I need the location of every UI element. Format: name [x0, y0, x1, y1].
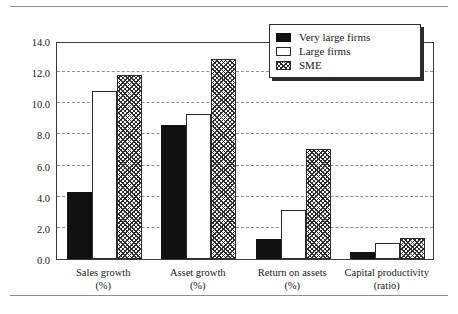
bar [375, 243, 400, 259]
y-axis-tick-label: 10.0 [8, 99, 50, 110]
bar [186, 114, 211, 259]
bar [211, 59, 236, 259]
y-axis-tick-label: 0.0 [8, 255, 50, 266]
bar [306, 149, 331, 259]
x-axis-category-label: Capital productivity(ratio) [317, 267, 457, 292]
figure: Percent or ratio 0.02.04.06.08.010.012.0… [0, 0, 458, 314]
legend-item: Very large firms [276, 30, 413, 44]
bar [256, 239, 281, 259]
y-axis-tick-label: 8.0 [8, 130, 50, 141]
legend-swatch-sme [276, 61, 291, 70]
legend-label-large-firms: Large firms [299, 45, 350, 57]
legend-item: Large firms [276, 44, 413, 58]
y-axis-tick-label: 12.0 [8, 68, 50, 79]
category-label-line2: (ratio) [317, 280, 457, 293]
category-label-line1: Asset growth [170, 267, 226, 278]
bar-group [152, 43, 247, 259]
y-axis-tick-label: 6.0 [8, 161, 50, 172]
bar-group [57, 43, 152, 259]
bar [92, 91, 117, 259]
y-axis-tick-label: 4.0 [8, 192, 50, 203]
legend-label-very-large-firms: Very large firms [299, 31, 370, 43]
bar [161, 125, 186, 259]
y-axis-tick-label: 14.0 [8, 37, 50, 48]
category-label-line1: Capital productivity [345, 267, 429, 278]
y-axis-tick-label: 2.0 [8, 223, 50, 234]
legend-label-sme: SME [299, 59, 322, 71]
bar [117, 75, 142, 259]
legend: Very large firms Large firms SME [269, 24, 421, 78]
category-label-line1: Sales growth [76, 267, 131, 278]
legend-swatch-large-firms [276, 47, 291, 56]
bar [281, 210, 306, 259]
legend-swatch-very-large-firms [276, 33, 291, 42]
legend-item: SME [276, 58, 413, 72]
bar [400, 238, 425, 259]
bar [350, 252, 375, 259]
bar [67, 192, 92, 259]
